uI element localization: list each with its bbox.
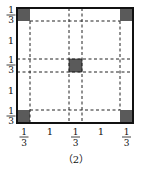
left-label-3-third: 1 3 — [7, 55, 16, 75]
svg-text:1: 1 — [124, 127, 130, 137]
bottom-label-4: 1 — [98, 126, 104, 137]
folding-diagram: 1 3 1 1 3 1 1 3 1 3 1 1 3 1 1 — [0, 0, 141, 172]
corner-square-bottom-right — [120, 110, 133, 123]
svg-text:1: 1 — [8, 55, 14, 65]
svg-text:3: 3 — [8, 116, 14, 126]
svg-text:3: 3 — [21, 138, 27, 148]
left-label-1-third: 1 3 — [7, 5, 16, 25]
bottom-labels: 1 3 1 1 3 1 1 3 — [20, 126, 132, 148]
bottom-label-2: 1 — [47, 126, 53, 137]
bottom-label-5-third: 1 3 — [122, 127, 131, 148]
left-labels: 1 3 1 1 3 1 1 3 — [7, 5, 16, 126]
corner-square-bottom-left — [17, 110, 30, 123]
bottom-label-3-third: 1 3 — [71, 127, 80, 148]
svg-text:3: 3 — [124, 138, 130, 148]
svg-text:3: 3 — [73, 138, 79, 148]
svg-text:3: 3 — [8, 65, 14, 75]
corner-square-top-left — [17, 8, 30, 21]
left-label-4: 1 — [8, 85, 14, 96]
left-label-1: 1 — [8, 35, 14, 46]
svg-text:1: 1 — [8, 106, 14, 116]
figure-caption: （2） — [63, 154, 89, 165]
corner-square-top-right — [120, 8, 133, 21]
svg-text:1: 1 — [8, 5, 14, 15]
bottom-label-1-third: 1 3 — [20, 127, 29, 148]
svg-text:3: 3 — [8, 15, 14, 25]
center-square — [69, 59, 82, 72]
svg-text:1: 1 — [73, 127, 79, 137]
svg-text:1: 1 — [21, 127, 27, 137]
left-label-5-third: 1 3 — [7, 106, 16, 126]
